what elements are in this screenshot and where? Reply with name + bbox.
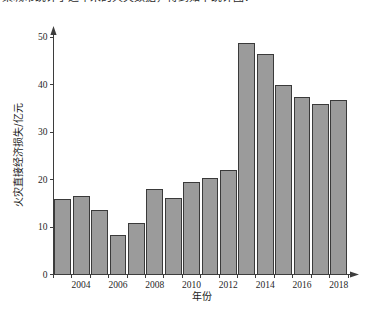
bar — [239, 43, 255, 274]
bar — [110, 236, 126, 275]
y-axis-tick-label: 40 — [38, 80, 48, 90]
x-axis-tick-label: 2006 — [108, 280, 127, 290]
bar — [220, 171, 236, 275]
bar — [312, 104, 328, 274]
bar — [73, 196, 89, 274]
x-axis-tick-label: 2016 — [292, 280, 311, 290]
y-axis-tick-label: 50 — [38, 32, 48, 42]
y-axis-tick-label: 30 — [38, 127, 48, 137]
bar — [165, 199, 181, 275]
x-axis-tick-label: 2018 — [329, 280, 348, 290]
x-axis-tick-label: 2008 — [145, 280, 164, 290]
x-axis-title: 年份 — [192, 290, 212, 302]
x-axis-arrow-icon — [350, 271, 359, 277]
bar — [257, 54, 273, 274]
bar — [276, 86, 292, 275]
bar — [55, 199, 71, 274]
y-axis-tick-group: 01020304050 — [38, 32, 54, 280]
chart-svg: 01020304050 2004200620082010201220142016… — [0, 0, 365, 321]
x-axis-tick-label: 2004 — [72, 280, 91, 290]
y-axis-tick-label: 0 — [43, 270, 48, 280]
bar — [147, 189, 163, 275]
bar-group — [55, 43, 347, 274]
x-axis-tick-label: 2014 — [256, 280, 275, 290]
y-axis-title: 火灾直接经济损失/亿元 — [12, 103, 24, 206]
x-axis-tick-label: 2010 — [182, 280, 201, 290]
y-axis-tick-label: 10 — [38, 222, 48, 232]
y-axis-tick-label: 20 — [38, 175, 48, 185]
bar — [128, 223, 144, 274]
fire-loss-bar-chart: 01020304050 2004200620082010201220142016… — [0, 0, 365, 321]
bar — [294, 97, 310, 274]
bar — [331, 101, 347, 275]
x-axis-tick-group: 20042006200820102012201420162018 — [54, 275, 349, 290]
bar — [92, 210, 108, 274]
bar — [184, 182, 200, 274]
y-axis-arrow-icon — [50, 26, 56, 35]
x-axis-tick-label: 2012 — [219, 280, 238, 290]
bar — [202, 178, 218, 274]
